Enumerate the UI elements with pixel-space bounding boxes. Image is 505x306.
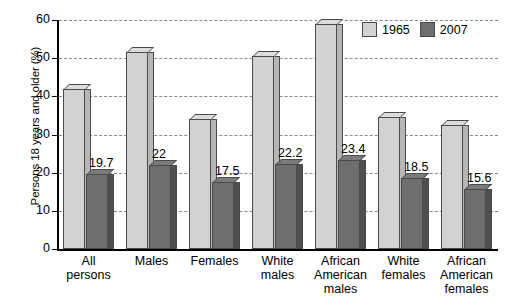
tick-40 bbox=[52, 96, 58, 97]
bar-1965-african-american-females[interactable] bbox=[441, 125, 463, 249]
x-label-line: American bbox=[429, 268, 504, 282]
bar-chart: Persons 18 years and older (%) 19.72217.… bbox=[0, 0, 505, 306]
tick-50 bbox=[52, 58, 58, 59]
x-label-line: persons bbox=[51, 268, 126, 282]
legend-label-1965: 1965 bbox=[382, 23, 410, 37]
bar-2007-african-american-males[interactable] bbox=[338, 160, 360, 249]
tick-30 bbox=[52, 135, 58, 136]
y-tick-label-50: 50 bbox=[4, 50, 50, 64]
bar-value-label: 22 bbox=[152, 147, 166, 161]
tick-20 bbox=[52, 173, 58, 174]
bar-2007-all-persons[interactable] bbox=[86, 174, 108, 249]
legend-label-2007: 2007 bbox=[440, 23, 468, 37]
x-axis-line bbox=[57, 249, 498, 251]
bar-1965-males[interactable] bbox=[126, 52, 148, 249]
bar-side-face bbox=[360, 160, 366, 249]
bar-front-face bbox=[126, 52, 148, 249]
bar-front-face bbox=[275, 164, 297, 249]
bar-value-label: 17.5 bbox=[215, 164, 239, 178]
bar-front-face bbox=[464, 189, 486, 249]
bar-front-face bbox=[86, 174, 108, 249]
bar-front-face bbox=[189, 119, 211, 249]
bar-side-face bbox=[234, 182, 240, 249]
tick-0 bbox=[52, 249, 58, 250]
bar-front-face bbox=[212, 182, 234, 249]
y-tick-label-60: 60 bbox=[4, 12, 50, 26]
bar-2007-males[interactable] bbox=[149, 165, 171, 249]
bar-value-label: 22.2 bbox=[278, 146, 302, 160]
bar-1965-african-american-males[interactable] bbox=[315, 24, 337, 249]
x-label-line: African bbox=[429, 254, 504, 268]
bar-front-face bbox=[441, 125, 463, 249]
bar-2007-females[interactable] bbox=[212, 182, 234, 249]
bar-value-label: 19.7 bbox=[89, 156, 113, 170]
bar-2007-white-females[interactable] bbox=[401, 178, 423, 249]
tick-60 bbox=[52, 20, 58, 21]
bar-value-label: 15.6 bbox=[467, 171, 491, 185]
bar-front-face bbox=[63, 89, 85, 249]
legend: 1965 2007 bbox=[362, 22, 468, 37]
x-label-line: females bbox=[429, 282, 504, 296]
bar-2007-african-american-females[interactable] bbox=[464, 189, 486, 249]
bar-1965-females[interactable] bbox=[189, 119, 211, 249]
plot-area: 19.72217.522.223.418.515.6 bbox=[57, 20, 498, 249]
bar-front-face bbox=[315, 24, 337, 249]
y-tick-label-10: 10 bbox=[4, 203, 50, 217]
bar-front-face bbox=[252, 56, 274, 250]
bar-front-face bbox=[149, 165, 171, 249]
y-tick-label-20: 20 bbox=[4, 165, 50, 179]
bar-1965-white-females[interactable] bbox=[378, 117, 400, 249]
bar-1965-all-persons[interactable] bbox=[63, 89, 85, 249]
bar-value-label: 23.4 bbox=[341, 142, 365, 156]
y-tick-label-0: 0 bbox=[4, 241, 50, 255]
bar-side-face bbox=[171, 165, 177, 249]
bar-front-face bbox=[401, 178, 423, 249]
y-tick-label-40: 40 bbox=[4, 88, 50, 102]
legend-swatch-2007 bbox=[420, 22, 435, 37]
bar-value-label: 18.5 bbox=[404, 160, 428, 174]
bar-1965-white-males[interactable] bbox=[252, 56, 274, 250]
y-tick-label-30: 30 bbox=[4, 127, 50, 141]
bar-side-face bbox=[423, 178, 429, 249]
x-label-african-american-females: AfricanAmericanfemales bbox=[429, 254, 504, 296]
bar-2007-white-males[interactable] bbox=[275, 164, 297, 249]
bar-front-face bbox=[338, 160, 360, 249]
tick-10 bbox=[52, 211, 58, 212]
legend-item-1965[interactable]: 1965 bbox=[362, 22, 410, 37]
bar-side-face bbox=[297, 164, 303, 249]
bar-side-face bbox=[108, 174, 114, 249]
bar-side-face bbox=[486, 189, 492, 249]
bar-front-face bbox=[378, 117, 400, 249]
legend-swatch-1965 bbox=[362, 22, 377, 37]
legend-item-2007[interactable]: 2007 bbox=[420, 22, 468, 37]
x-label-line: males bbox=[303, 282, 378, 296]
gridline-60 bbox=[59, 20, 498, 21]
